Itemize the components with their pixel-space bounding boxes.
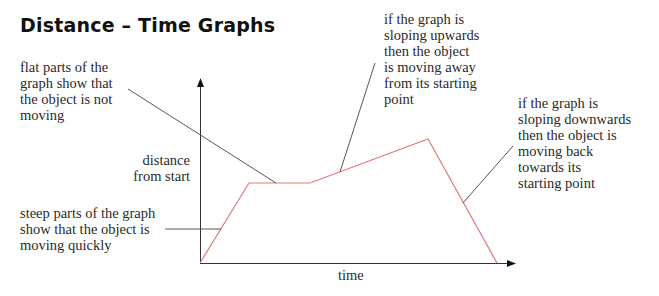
leader-line-flat <box>128 89 276 183</box>
y-axis-arrow-icon <box>197 78 204 87</box>
distance-time-graph <box>0 0 659 296</box>
leader-line-upwards <box>340 63 375 172</box>
graph-line <box>200 139 497 263</box>
x-axis-arrow-icon <box>507 260 516 267</box>
leader-line-downwards <box>463 146 513 203</box>
